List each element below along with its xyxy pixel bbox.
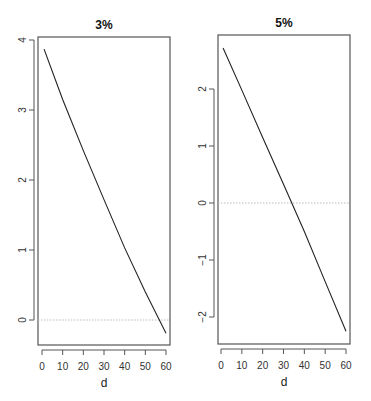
y-tick-label: 4 <box>17 37 28 43</box>
y-tick-label: −1 <box>197 254 208 266</box>
y-tick-label: 1 <box>17 247 28 253</box>
chart-canvas: 3%0102030405060d01234 5%0102030405060d−2… <box>0 0 371 401</box>
x-tick-label: 30 <box>278 360 290 371</box>
x-axis-label: d <box>281 375 288 389</box>
x-tick-label: 20 <box>78 361 90 372</box>
panel-5pct: 5%0102030405060d−2−1012 <box>197 16 352 389</box>
x-tick-label: 50 <box>320 360 332 371</box>
x-tick-label: 10 <box>236 360 248 371</box>
y-tick-label: 3 <box>17 107 28 113</box>
x-tick-label: 60 <box>160 361 172 372</box>
y-tick-label: 0 <box>17 317 28 323</box>
x-tick-label: 20 <box>257 360 269 371</box>
plot-frame <box>38 37 170 345</box>
x-tick-label: 40 <box>119 361 131 372</box>
chart-title: 3% <box>95 18 113 32</box>
x-axis-label: d <box>101 376 108 390</box>
y-tick-label: −2 <box>197 311 208 323</box>
x-tick-label: 0 <box>218 360 224 371</box>
y-tick-label: 0 <box>197 200 208 206</box>
y-tick-label: 2 <box>17 177 28 183</box>
x-tick-label: 50 <box>140 361 152 372</box>
y-tick-label: 2 <box>197 86 208 92</box>
x-tick-label: 10 <box>57 361 69 372</box>
y-tick-label: 1 <box>197 143 208 149</box>
panel-3pct: 3%0102030405060d01234 <box>17 18 172 390</box>
chart-title: 5% <box>275 16 293 30</box>
x-tick-label: 40 <box>299 360 311 371</box>
data-line <box>44 49 166 333</box>
x-tick-label: 0 <box>39 361 45 372</box>
data-line <box>223 48 346 331</box>
x-tick-label: 30 <box>98 361 110 372</box>
x-tick-label: 60 <box>340 360 352 371</box>
